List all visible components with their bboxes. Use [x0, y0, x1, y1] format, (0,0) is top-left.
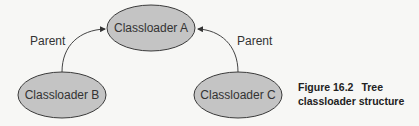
caption-line-1: Figure 16.2Tree	[298, 80, 404, 94]
node-label-c: Classloader C	[200, 88, 276, 102]
caption-title-part1: Tree	[361, 81, 383, 93]
node-label-b: Classloader B	[25, 88, 100, 102]
figure-number: Figure 16.2	[298, 81, 353, 93]
edge-label-b-to-a: Parent	[30, 34, 66, 48]
edge-b-to-a	[62, 29, 105, 72]
node-label-a: Classloader A	[114, 21, 188, 35]
node-classloader-b: Classloader B	[18, 72, 106, 118]
edge-label-c-to-a: Parent	[237, 34, 273, 48]
figure-caption: Figure 16.2Tree classloader structure	[298, 80, 404, 108]
caption-line-2: classloader structure	[298, 94, 404, 108]
node-classloader-a: Classloader A	[107, 5, 195, 51]
edge-c-to-a	[198, 29, 238, 72]
node-classloader-c: Classloader C	[194, 72, 282, 118]
